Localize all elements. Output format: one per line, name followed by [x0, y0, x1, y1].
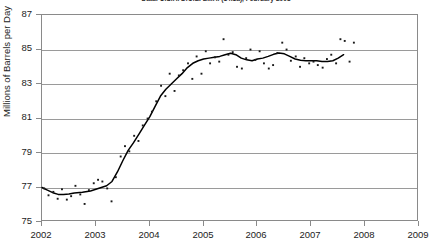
- scatter-point: [196, 56, 198, 58]
- scatter-point: [205, 50, 207, 52]
- scatter-point: [155, 100, 157, 102]
- x-tick-label-2007: 2007: [285, 229, 335, 240]
- scatter-point: [214, 56, 216, 58]
- scatter-point: [142, 125, 144, 127]
- scatter-point: [299, 66, 301, 68]
- x-tick-label-2002: 2002: [16, 229, 66, 240]
- scatter-point: [263, 62, 265, 64]
- x-tick-label-2006: 2006: [231, 229, 281, 240]
- scatter-point: [218, 61, 220, 63]
- scatter-point: [286, 49, 288, 51]
- scatter-point: [106, 187, 108, 189]
- scatter-point: [232, 51, 234, 53]
- scatter-point: [178, 74, 180, 76]
- scatter-point: [101, 181, 103, 183]
- scatter-point: [128, 150, 130, 152]
- scatter-point: [48, 194, 50, 196]
- scatter-point: [61, 188, 63, 190]
- scatter-point: [259, 50, 261, 52]
- scatter-point: [201, 73, 203, 75]
- scatter-point: [223, 38, 225, 40]
- scatter-point: [52, 191, 54, 193]
- scatter-point: [295, 56, 297, 58]
- scatter-point: [147, 118, 149, 120]
- x-tick-label-2008: 2008: [339, 229, 389, 240]
- scatter-point: [79, 194, 81, 196]
- scatter-point: [303, 57, 305, 59]
- scatter-point: [330, 54, 332, 56]
- x-tick-label-2005: 2005: [178, 229, 228, 240]
- scatter-point: [281, 42, 283, 44]
- scatter-point: [308, 62, 310, 64]
- scatter-point: [322, 67, 324, 69]
- scatter-point: [182, 69, 184, 71]
- scatter-point: [124, 145, 126, 147]
- x-tick-label-2009: 2009: [393, 229, 432, 240]
- x-tick-label-2003: 2003: [70, 229, 120, 240]
- scatter-point: [236, 66, 238, 68]
- scatter-point: [66, 199, 68, 201]
- scatter-point: [209, 62, 211, 64]
- data-layer: [42, 15, 419, 222]
- scatter-point: [344, 40, 346, 42]
- scatter-point: [187, 62, 189, 64]
- scatter-point: [349, 61, 351, 63]
- scatter-point: [133, 135, 135, 137]
- scatter-point: [164, 95, 166, 97]
- scatter-point: [111, 200, 113, 202]
- scatter-point: [339, 38, 341, 40]
- x-tick-label-2004: 2004: [124, 229, 174, 240]
- scatter-point: [276, 52, 278, 54]
- scatter-point: [84, 203, 86, 205]
- scatter-point: [250, 49, 252, 51]
- scatter-point: [245, 57, 247, 59]
- scatter-point: [317, 64, 319, 66]
- scatter-point: [88, 189, 90, 191]
- scatter-markers: [43, 38, 355, 205]
- trend-line: [42, 53, 344, 194]
- scatter-point: [290, 60, 292, 62]
- scatter-point: [272, 64, 274, 66]
- scatter-point: [57, 198, 59, 200]
- scatter-point: [120, 156, 122, 158]
- scatter-point: [254, 59, 256, 61]
- scatter-point: [353, 42, 355, 44]
- scatter-point: [227, 54, 229, 56]
- scatter-point: [70, 195, 72, 197]
- oil-supply-chart: Data: U.S.A. D.O.E. E.I.A. (14.1a), Febr…: [0, 0, 432, 244]
- scatter-point: [169, 73, 171, 75]
- scatter-point: [191, 78, 193, 80]
- scatter-point: [93, 182, 95, 184]
- scatter-point: [97, 179, 99, 181]
- scatter-point: [326, 58, 328, 60]
- scatter-point: [160, 85, 162, 87]
- scatter-point: [313, 61, 315, 63]
- plot-area: [41, 14, 418, 221]
- scatter-point: [43, 187, 45, 189]
- scatter-point: [115, 176, 117, 178]
- scatter-point: [74, 185, 76, 187]
- scatter-point: [138, 140, 140, 142]
- scatter-point: [335, 62, 337, 64]
- scatter-point: [174, 90, 176, 92]
- scatter-point: [151, 111, 153, 113]
- scatter-point: [268, 68, 270, 70]
- scatter-point: [241, 68, 243, 70]
